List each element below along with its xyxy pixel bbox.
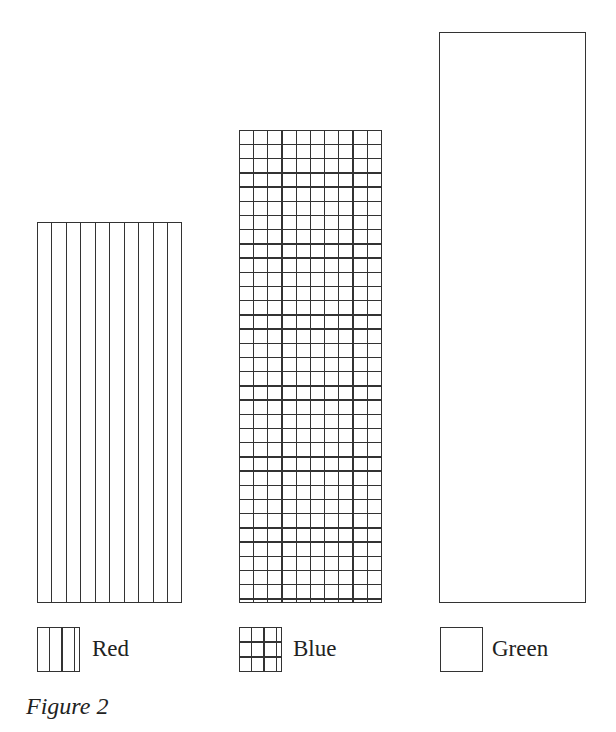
legend-swatch-red	[37, 627, 80, 672]
bar-red	[37, 222, 182, 603]
figure-caption: Figure 2	[26, 693, 108, 720]
bar-green	[439, 32, 586, 603]
legend-label-green: Green	[492, 636, 548, 662]
legend-swatch-blue	[239, 627, 282, 672]
legend-label-red: Red	[92, 636, 129, 662]
legend-swatch-green	[440, 627, 483, 672]
legend-label-blue: Blue	[293, 636, 336, 662]
bar-blue	[239, 130, 382, 603]
